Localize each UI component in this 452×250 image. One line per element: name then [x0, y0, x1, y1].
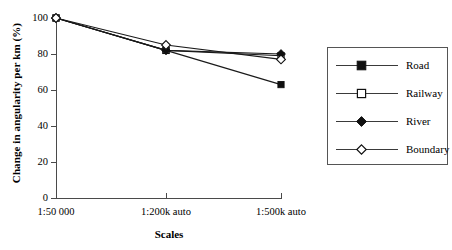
- legend-label-boundary: Boundary: [406, 142, 449, 156]
- series-boundary: [52, 14, 286, 64]
- legend-item-boundary[interactable]: Boundary: [328, 137, 449, 163]
- plot-area: 100 80 60 40 20 0 1:50 000 1:200k auto 1…: [0, 0, 320, 250]
- filled-square-marker: [278, 82, 284, 88]
- legend-label-road: Road: [406, 58, 429, 72]
- filled-diamond-icon: [355, 115, 368, 128]
- series-river: [52, 14, 286, 59]
- legend-item-river[interactable]: River: [328, 109, 449, 135]
- legend-item-railway[interactable]: Railway: [328, 81, 449, 107]
- filled-square-icon: [355, 59, 368, 72]
- legend-label-railway: Railway: [406, 86, 443, 100]
- legend-box: Road Railway River Boundary: [327, 47, 448, 165]
- open-square-icon: [355, 87, 368, 100]
- legend-label-river: River: [406, 114, 430, 128]
- open-diamond-icon: [355, 143, 368, 156]
- series-layer: [0, 0, 320, 250]
- legend-item-road[interactable]: Road: [328, 53, 449, 79]
- chart-figure: 100 80 60 40 20 0 1:50 000 1:200k auto 1…: [0, 0, 452, 250]
